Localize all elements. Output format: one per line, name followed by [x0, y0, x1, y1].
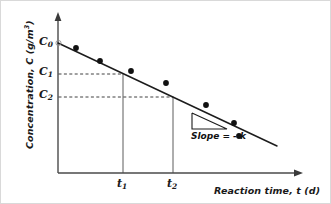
data-point [73, 45, 79, 51]
data-point [97, 58, 103, 64]
plot-canvas [1, 1, 331, 204]
x-axis-title: Reaction time, t (d) [214, 185, 320, 196]
y-axis-title: Concentration, C (g/m3) [23, 20, 35, 149]
slope-triangle [192, 113, 227, 129]
data-point [163, 80, 169, 86]
chart-figure: C0 C1 C2 t1 t2 Concentration, C (g/m3) R… [0, 0, 331, 204]
x-tick-label-t2: t2 [167, 178, 177, 189]
x-axis-arrowhead [294, 170, 303, 177]
y-tick-label-c1: C1 [39, 66, 53, 77]
y-axis-arrowhead [55, 12, 62, 21]
slope-annotation-label: Slope = - k [191, 131, 246, 141]
data-point [128, 68, 134, 74]
data-point [203, 102, 209, 108]
y-tick-label-c2: C2 [39, 89, 53, 100]
data-point [231, 120, 237, 126]
x-tick-label-t1: t1 [117, 178, 127, 189]
y-tick-label-c0: C0 [39, 36, 53, 47]
